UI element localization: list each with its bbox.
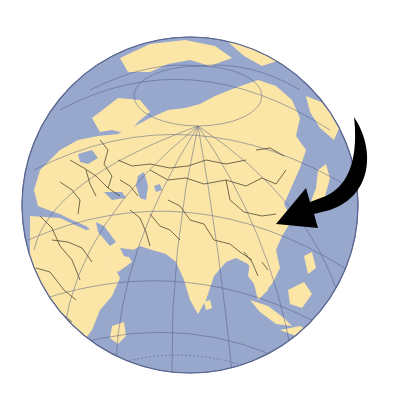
globe-illustration [0, 0, 396, 395]
